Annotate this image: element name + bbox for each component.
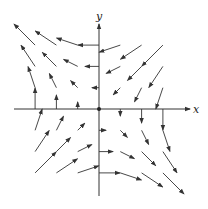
vector-arrow (56, 138, 70, 152)
vector-arrow (121, 45, 142, 59)
vector-field-diagram: x y (0, 0, 208, 209)
vector-arrow (35, 31, 56, 45)
vector-arrow (35, 152, 56, 173)
vector-arrow (71, 81, 78, 88)
vector-arrow (135, 88, 142, 102)
vector-arrow (21, 45, 35, 66)
vector-arrow (28, 67, 35, 88)
origin-dot (97, 107, 101, 111)
vector-arrow (163, 130, 170, 151)
vector-arrow (35, 109, 42, 130)
vector-arrow (42, 52, 56, 66)
vector-arrow (64, 59, 78, 66)
vector-arrow (14, 24, 35, 45)
vector-arrow (156, 88, 163, 109)
vector-arrow (142, 173, 163, 187)
vector-arrow (57, 38, 78, 45)
vector-arrow (142, 45, 163, 66)
vector-arrow (78, 123, 85, 130)
vector-arrow (56, 159, 77, 173)
vector-arrow (120, 130, 127, 137)
x-axis-label: x (193, 103, 200, 116)
vector-arrow (120, 152, 134, 159)
vector-arrow (142, 152, 156, 166)
vector-arrow (142, 130, 149, 144)
vector-arrow (128, 66, 142, 80)
vector-arrow (163, 173, 184, 194)
y-axis-label: y (95, 10, 103, 23)
vector-arrow (120, 173, 141, 180)
vector-arrow (99, 45, 120, 52)
vector-arrow (49, 74, 56, 88)
vector-arrow (163, 152, 177, 173)
vector-arrow (35, 131, 49, 152)
y-axis: y (95, 10, 103, 196)
vector-arrow (106, 66, 120, 73)
vector-arrow (113, 88, 120, 95)
vector-arrow (78, 166, 99, 173)
vector-arrow (149, 66, 163, 87)
vector-arrow (78, 145, 92, 152)
vector-arrow (56, 116, 63, 130)
